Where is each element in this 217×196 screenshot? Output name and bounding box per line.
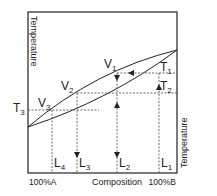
arrow-left-icon	[128, 70, 134, 76]
phase-diagram: Temperature Temperature Composition 100%…	[0, 0, 217, 196]
arrow-up-icon	[114, 102, 120, 108]
t3-label: T3	[13, 101, 25, 117]
t1-label: T1	[160, 60, 172, 76]
arrows	[74, 70, 162, 158]
l3-label: L3	[79, 156, 91, 172]
x-axis-label: Composition	[92, 177, 142, 187]
liquid-curve	[28, 50, 177, 127]
v1-label: V1	[104, 57, 117, 73]
x-right-label: 100%B	[149, 177, 177, 187]
l2-label: L2	[119, 156, 131, 172]
x-left-label: 100%A	[29, 177, 57, 187]
plot-frame	[28, 12, 177, 173]
l4-label: L4	[54, 156, 66, 172]
v2-label: V2	[61, 79, 74, 95]
t2-label: T2	[160, 79, 172, 95]
y-axis-left-label: Temperature	[29, 16, 39, 67]
y-axis-right-label: Temperature	[179, 117, 189, 168]
l1-label: L1	[161, 156, 173, 172]
arrow-down-icon	[114, 75, 120, 81]
vapour-curve	[28, 50, 177, 127]
v3-label: V3	[38, 96, 51, 112]
